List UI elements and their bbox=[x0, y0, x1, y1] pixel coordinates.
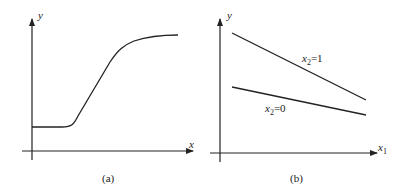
caption-a: (a) bbox=[102, 172, 115, 185]
line-x2-0 bbox=[232, 87, 366, 115]
y-axis-label-a: y bbox=[37, 9, 43, 21]
panel-b: y x1 x2=1 x2=0 (b) bbox=[210, 9, 387, 185]
caption-b: (b) bbox=[290, 172, 303, 185]
x-axis-label-b: x1 bbox=[377, 141, 387, 156]
line-x2-1 bbox=[232, 33, 366, 100]
sigmoid-curve bbox=[32, 35, 178, 127]
panel-a: y x (a) bbox=[22, 9, 194, 185]
figure: y x (a) y x1 x2=1 x2=0 (b) bbox=[0, 0, 407, 194]
x-axis-label-a: x bbox=[188, 138, 194, 150]
label-x2-0: x2=0 bbox=[264, 102, 286, 117]
label-x2-1: x2=1 bbox=[301, 52, 323, 67]
y-axis-label-b: y bbox=[226, 9, 232, 21]
